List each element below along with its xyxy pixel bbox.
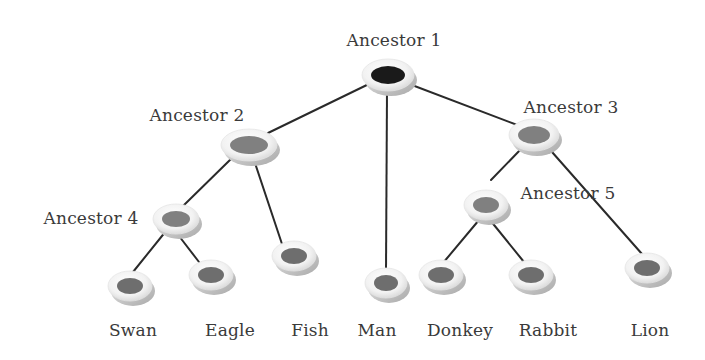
edge-a1-man [386, 91, 387, 272]
node-a3 [509, 119, 562, 156]
label-fish: Fish [291, 320, 329, 340]
edge-a2-a4 [182, 157, 233, 207]
label-a5: Ancestor 5 [521, 183, 616, 203]
edge-a1-a3 [404, 82, 520, 126]
label-swan: Swan [109, 320, 157, 340]
edge-a2-fish [254, 160, 282, 244]
label-a1: Ancestor 1 [347, 30, 442, 50]
node-core [518, 267, 544, 283]
node-swan [108, 271, 155, 306]
label-lion: Lion [631, 320, 670, 340]
node-core [634, 260, 660, 276]
label-a2: Ancestor 2 [150, 105, 245, 125]
edge-a5-donkey [443, 220, 479, 263]
label-a4: Ancestor 4 [44, 208, 139, 228]
node-core [473, 197, 499, 213]
node-donkey [419, 260, 466, 295]
label-donkey: Donkey [427, 320, 493, 340]
phylogenetic-tree-diagram: Ancestor 1Ancestor 2Ancestor 3Ancestor 4… [0, 0, 705, 360]
node-a1 [362, 59, 417, 96]
edge-a3-lion [552, 152, 642, 254]
label-eagle: Eagle [205, 320, 255, 340]
edge-a4-swan [133, 231, 166, 272]
node-core [371, 66, 405, 84]
label-man: Man [357, 320, 396, 340]
node-eagle [189, 260, 236, 295]
node-core [428, 267, 454, 283]
node-core [117, 278, 143, 294]
node-core [518, 126, 550, 144]
edge-a4-eagle [179, 236, 199, 262]
node-core [162, 211, 190, 227]
label-rabbit: Rabbit [519, 320, 578, 340]
node-man [365, 268, 410, 303]
edge-a1-a2 [268, 82, 373, 133]
node-fish [272, 241, 319, 276]
tree-canvas [0, 0, 705, 360]
edge-a3-a5 [491, 148, 522, 180]
label-a3: Ancestor 3 [524, 97, 619, 117]
node-core [230, 136, 268, 154]
node-a5 [464, 190, 511, 225]
node-lion [625, 253, 672, 288]
edge-a5-rabbit [490, 220, 524, 262]
node-rabbit [509, 260, 556, 295]
node-core [281, 248, 307, 264]
node-core [198, 267, 224, 283]
node-a4 [153, 204, 202, 239]
node-core [374, 275, 398, 291]
